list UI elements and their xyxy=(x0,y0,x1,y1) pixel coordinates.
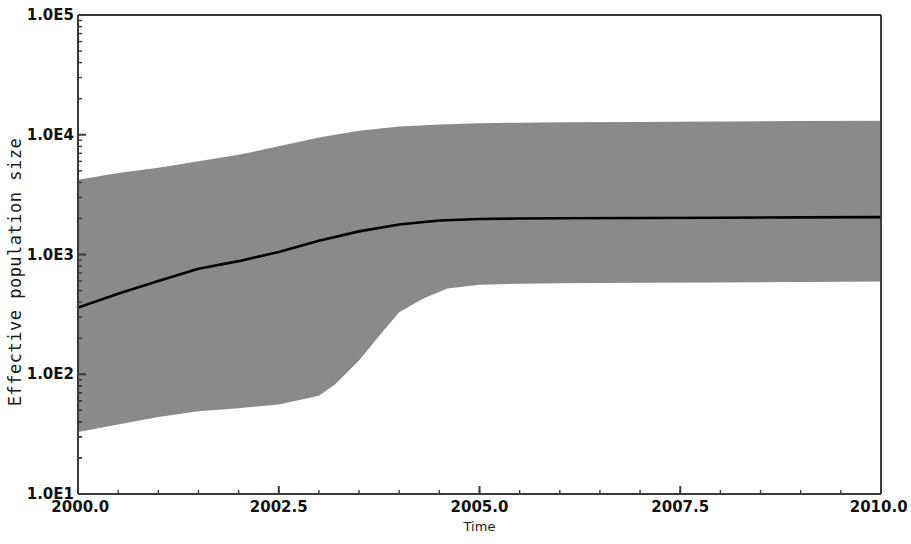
x-axis-title: Time xyxy=(78,519,881,534)
x-tick-label: 2002.5 xyxy=(250,498,308,516)
x-tick-label: 2007.5 xyxy=(651,498,709,516)
plot-canvas xyxy=(0,0,911,544)
x-tick-label: 2010.0 xyxy=(850,498,908,516)
x-tick-label: 2005.0 xyxy=(451,498,509,516)
x-tick-label: 2000.0 xyxy=(51,498,109,516)
y-axis-title: Effective population size xyxy=(0,0,30,544)
population-size-chart: 1.0E51.0E41.0E31.0E21.0E1 2000.02002.520… xyxy=(0,0,911,544)
hpd-band xyxy=(78,121,881,432)
